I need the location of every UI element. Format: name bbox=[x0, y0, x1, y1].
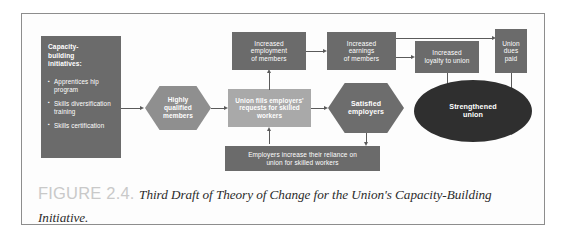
node-highly-qualified-members[interactable]: Highly qualified members bbox=[145, 86, 211, 130]
flow-diagram: Capacity- building initiatives: Apprenti… bbox=[0, 0, 565, 180]
arrow-union-to-employers-head bbox=[324, 106, 328, 110]
node-satisfied-employers-label: Satisfied employers bbox=[328, 100, 404, 117]
node-union-dues-paid[interactable]: Union dues paid bbox=[495, 29, 527, 73]
node-strengthened-union-label: Strengthened union bbox=[414, 103, 532, 120]
node-union-dues-paid-label: Union dues paid bbox=[495, 40, 527, 63]
node-union-fills-requests-label: Union fills employers' requests for skil… bbox=[228, 97, 311, 120]
capacity-box-heading: Capacity- building initiatives: bbox=[48, 43, 115, 69]
arrow-capacity-to-members-line bbox=[121, 108, 141, 109]
arrow-capacity-to-members-head bbox=[140, 106, 144, 110]
node-increased-loyalty-label: Increased loyalty to union bbox=[415, 49, 479, 64]
node-increased-employment[interactable]: Increased employment of members bbox=[232, 32, 306, 70]
node-increased-earnings-label: Increased earnings of members bbox=[327, 40, 396, 63]
node-increased-employment-label: Increased employment of members bbox=[232, 40, 306, 63]
node-increased-loyalty[interactable]: Increased loyalty to union bbox=[415, 41, 479, 73]
node-increased-earnings[interactable]: Increased earnings of members bbox=[327, 32, 396, 70]
capacity-bullet-skills-certification: Skills certification bbox=[48, 122, 115, 130]
node-capacity-building-initiatives[interactable]: Capacity- building initiatives: Apprenti… bbox=[41, 36, 121, 158]
node-highly-qualified-members-label: Highly qualified members bbox=[145, 96, 211, 119]
figure-caption-label: FIGURE 2.4. bbox=[38, 184, 135, 202]
arrow-reliance-to-union-line bbox=[269, 131, 270, 144]
capacity-bullet-skills-diversification: Skills diversification training bbox=[48, 100, 115, 116]
node-strengthened-union[interactable]: Strengthened union bbox=[414, 80, 532, 142]
arrow-earnings-to-dues-line bbox=[396, 38, 494, 39]
node-satisfied-employers[interactable]: Satisfied employers bbox=[328, 83, 404, 133]
capacity-bullet-apprenticeship: Apprentices hip program bbox=[48, 78, 115, 94]
node-union-fills-requests[interactable]: Union fills employers' requests for skil… bbox=[228, 89, 311, 127]
arrow-union-to-employment-line bbox=[269, 72, 270, 90]
node-employers-reliance-label: Employers increase their reliance on uni… bbox=[225, 151, 380, 166]
arrow-reliance-to-union-head bbox=[267, 127, 271, 131]
figure-container: Capacity- building initiatives: Apprenti… bbox=[0, 0, 565, 240]
node-employers-reliance[interactable]: Employers increase their reliance on uni… bbox=[225, 146, 380, 171]
figure-caption: FIGURE 2.4. Third Draft of Theory of Cha… bbox=[38, 182, 538, 228]
